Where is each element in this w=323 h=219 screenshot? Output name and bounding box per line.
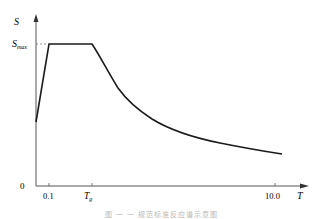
x-tick-label-10: 10.0	[265, 191, 280, 201]
x-tick-label-tg: Tg	[84, 191, 92, 202]
x-tick-label-0.1: 0.1	[43, 191, 54, 201]
x-axis-label: T	[297, 190, 304, 201]
origin-label: 0	[20, 181, 25, 191]
figure-caption: 图 一 一 规范标准反应谱示意图	[0, 209, 323, 219]
spectrum-curve	[36, 44, 282, 154]
x-axis-arrow-icon	[300, 184, 309, 189]
response-spectrum-figure: S Smax 0 0.1 Tg 10.0 T 图 一 一 规范标准反应谱示意图	[0, 0, 323, 219]
y-axis-arrow-icon	[34, 14, 39, 22]
y-axis-label: S	[14, 16, 19, 27]
chart-canvas: S Smax 0 0.1 Tg 10.0 T	[0, 0, 323, 219]
smax-label: Smax	[12, 38, 27, 50]
